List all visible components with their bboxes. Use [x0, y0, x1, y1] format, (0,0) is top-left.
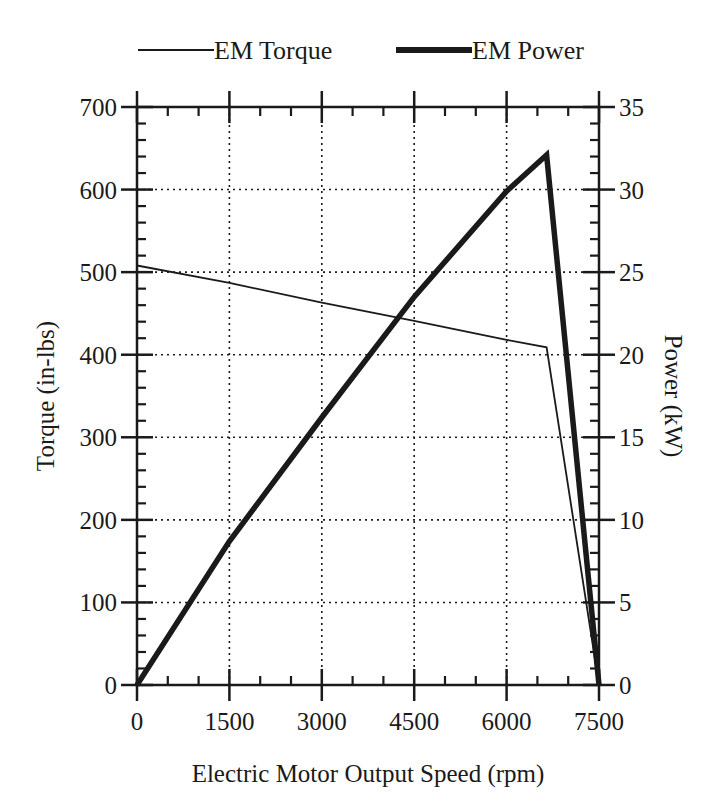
- y-tick-label: 200: [80, 507, 118, 534]
- plot-frame: [137, 107, 599, 685]
- x-tick-label: 1500: [204, 708, 254, 735]
- legend-power-label: EM Power: [472, 36, 584, 65]
- y2-tick-label: 10: [619, 507, 644, 534]
- y2-tick-label: 0: [619, 672, 632, 699]
- axes: [121, 91, 615, 701]
- grid-lines: [137, 107, 599, 685]
- x-tick-label: 4500: [389, 708, 439, 735]
- y2-tick-label: 30: [619, 177, 644, 204]
- y-tick-label: 500: [80, 259, 118, 286]
- torque-power-chart: EM Torque EM Power 015003000450060007500…: [0, 0, 706, 808]
- y-left-tick-labels: 0100200300400500600700: [80, 94, 118, 699]
- y2-tick-label: 20: [619, 342, 644, 369]
- y-tick-label: 400: [80, 342, 118, 369]
- x-tick-label: 7500: [574, 708, 624, 735]
- y-right-axis-title: Power (kW): [659, 335, 687, 458]
- legend-torque-label: EM Torque: [214, 36, 332, 65]
- y-tick-label: 0: [105, 672, 118, 699]
- y2-tick-label: 15: [619, 424, 644, 451]
- x-tick-label: 6000: [482, 708, 532, 735]
- power-series-line: [137, 155, 599, 685]
- y2-tick-label: 35: [619, 94, 644, 121]
- y-left-axis-title: Torque (in-lbs): [32, 321, 60, 471]
- x-tick-label: 0: [131, 708, 144, 735]
- y-tick-label: 600: [80, 177, 118, 204]
- y-tick-label: 700: [80, 94, 118, 121]
- y-tick-label: 100: [80, 589, 118, 616]
- x-tick-labels: 015003000450060007500: [131, 708, 624, 735]
- x-tick-label: 3000: [297, 708, 347, 735]
- torque-series-line: [137, 266, 599, 686]
- y2-tick-label: 5: [619, 589, 632, 616]
- y-tick-label: 300: [80, 424, 118, 451]
- x-axis-title: Electric Motor Output Speed (rpm): [192, 760, 545, 788]
- y2-tick-label: 25: [619, 259, 644, 286]
- y-right-tick-labels: 05101520253035: [619, 94, 644, 699]
- legend: EM Torque EM Power: [138, 36, 584, 65]
